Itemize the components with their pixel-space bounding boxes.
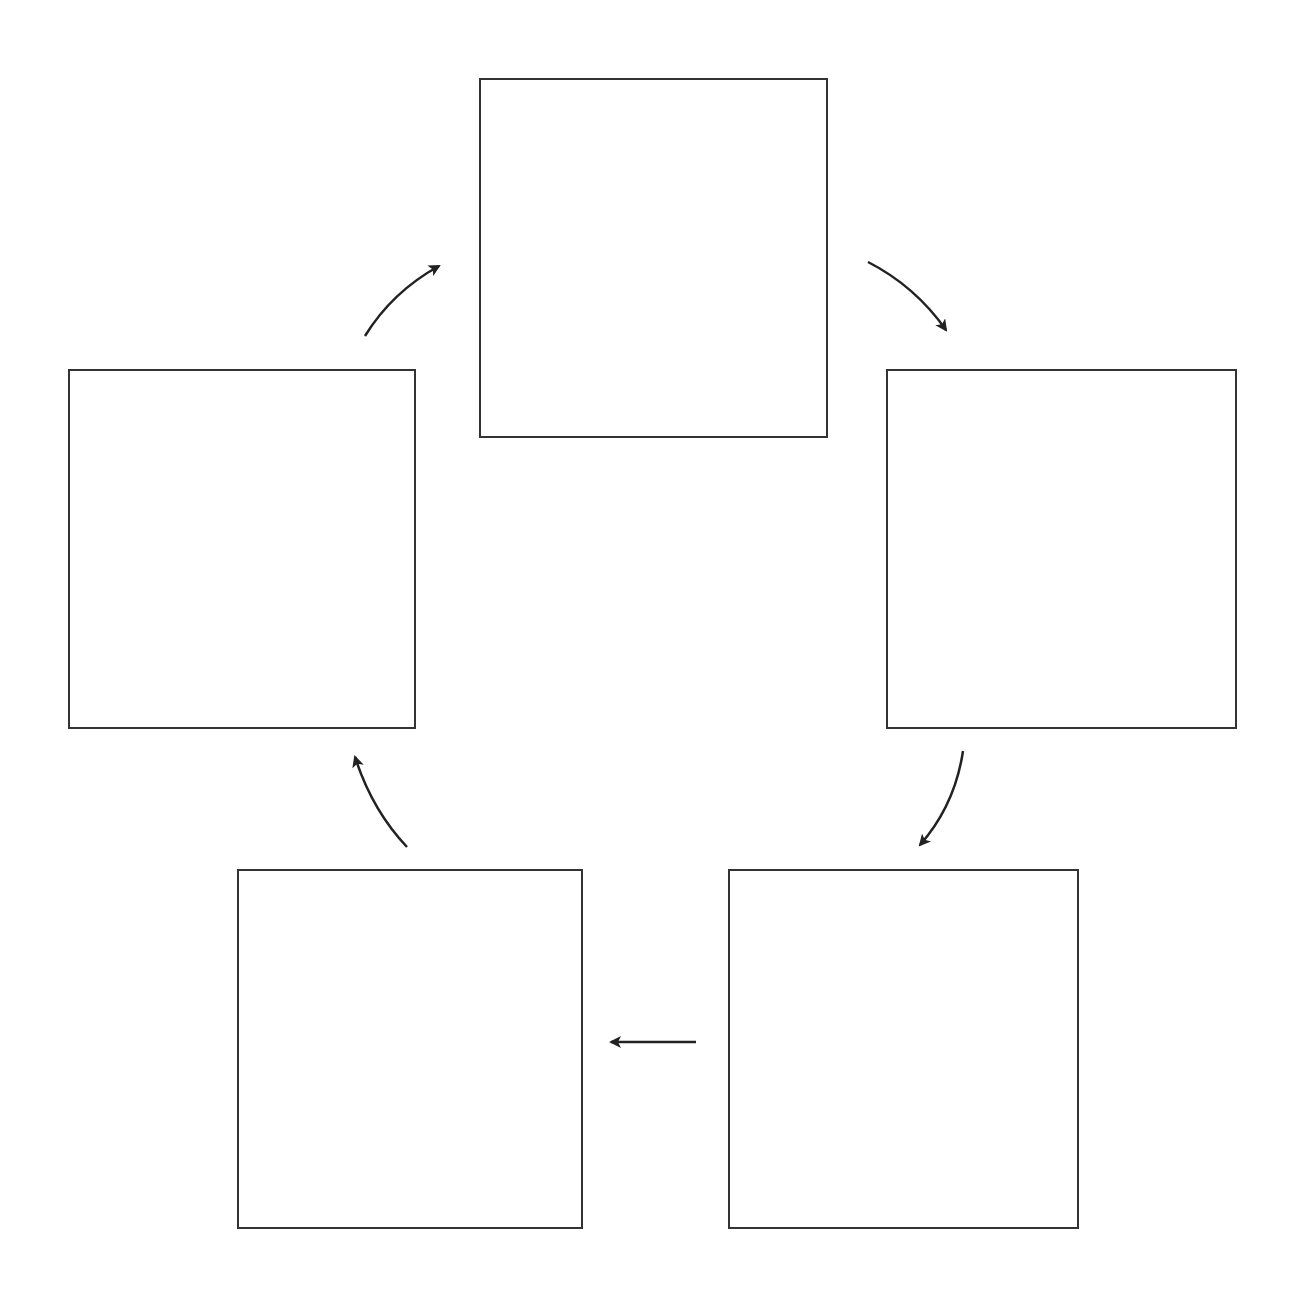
- cycle-box-left: [68, 369, 416, 729]
- cycle-box-bottom-right: [728, 869, 1079, 1229]
- cycle-box-top: [479, 78, 828, 438]
- arrow-left-to-top-icon: [365, 266, 439, 336]
- cycle-box-right: [886, 369, 1237, 729]
- arrow-right-to-bottom-right-icon: [920, 751, 963, 845]
- arrow-top-to-right-icon: [868, 262, 946, 330]
- cycle-box-bottom-left: [237, 869, 583, 1229]
- arrow-bottom-left-to-left-icon: [355, 757, 407, 847]
